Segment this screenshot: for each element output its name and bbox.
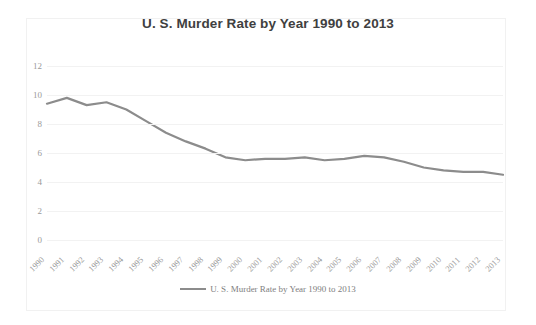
- x-tick-label: 2000: [225, 255, 244, 274]
- gridline: [47, 95, 503, 96]
- y-tick-label: 6: [20, 148, 42, 158]
- x-tick-label: 1994: [106, 255, 125, 274]
- x-tick-label: 2012: [463, 255, 482, 274]
- y-tick-label: 2: [20, 206, 42, 216]
- chart-title: U. S. Murder Rate by Year 1990 to 2013: [0, 16, 536, 31]
- x-tick-label: 2009: [404, 255, 423, 274]
- y-tick-label: 10: [20, 90, 42, 100]
- plot-area: [47, 66, 503, 240]
- chart-screenshot: U. S. Murder Rate by Year 1990 to 2013 0…: [0, 0, 536, 325]
- x-tick-label: 2002: [265, 255, 284, 274]
- x-tick-label: 2003: [285, 255, 304, 274]
- x-tick-label: 2007: [364, 255, 383, 274]
- y-tick-label: 12: [20, 61, 42, 71]
- series-line-murder-rate: [47, 98, 503, 175]
- x-tick-label: 2006: [344, 255, 363, 274]
- y-tick-label: 4: [20, 177, 42, 187]
- legend-swatch-icon: [180, 288, 206, 290]
- x-tick-label: 2001: [245, 255, 264, 274]
- y-axis: 024681012: [20, 66, 42, 240]
- x-axis: 1990199119921993199419951996199719981999…: [47, 242, 503, 282]
- x-tick-label: 2010: [424, 255, 443, 274]
- x-tick-label: 1998: [186, 255, 205, 274]
- gridline: [47, 182, 503, 183]
- gridline: [47, 153, 503, 154]
- x-tick-label: 1997: [166, 255, 185, 274]
- chart-legend: U. S. Murder Rate by Year 1990 to 2013: [0, 284, 536, 294]
- x-tick-label: 1999: [206, 255, 225, 274]
- x-tick-label: 2011: [444, 255, 463, 274]
- gridline: [47, 240, 503, 241]
- gridline: [47, 124, 503, 125]
- x-tick-label: 2005: [325, 255, 344, 274]
- gridline: [47, 211, 503, 212]
- x-tick-label: 1996: [146, 255, 165, 274]
- y-tick-label: 8: [20, 119, 42, 129]
- x-tick-label: 2013: [483, 255, 502, 274]
- x-tick-label: 1991: [47, 255, 66, 274]
- x-tick-label: 2004: [305, 255, 324, 274]
- x-tick-label: 2008: [384, 255, 403, 274]
- x-tick-label: 1995: [126, 255, 145, 274]
- gridline: [47, 66, 503, 67]
- x-tick-label: 1993: [87, 255, 106, 274]
- legend-label: U. S. Murder Rate by Year 1990 to 2013: [210, 284, 356, 294]
- y-tick-label: 0: [20, 235, 42, 245]
- x-tick-label: 1992: [67, 255, 86, 274]
